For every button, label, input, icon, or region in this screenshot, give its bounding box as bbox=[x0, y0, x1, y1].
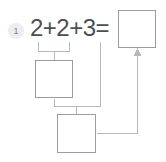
work-box-2-value bbox=[58, 115, 95, 152]
answer-box[interactable] bbox=[118, 10, 156, 48]
work-box-1-output-line bbox=[54, 99, 101, 107]
work-box-1[interactable] bbox=[35, 60, 73, 98]
answer-box-value bbox=[119, 11, 155, 47]
work-box-1-value bbox=[36, 61, 72, 97]
result-arrow-head bbox=[134, 48, 141, 56]
bracket-group-1 bbox=[39, 51, 70, 52]
problem-number-badge: 1 bbox=[8, 23, 24, 39]
worksheet-problem-diagram: 1 2+2+3= bbox=[0, 0, 166, 162]
result-arrow-line bbox=[97, 54, 138, 134]
work-box-2[interactable] bbox=[57, 114, 96, 153]
equation-text: 2+2+3= bbox=[30, 14, 109, 42]
